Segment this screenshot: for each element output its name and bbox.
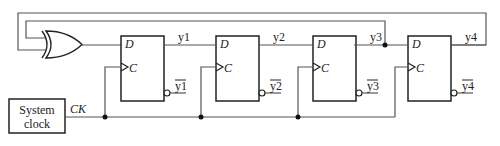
c-input-label: C <box>321 61 330 75</box>
xor-gate <box>42 31 82 58</box>
qbar-output-label: y1 <box>175 79 187 93</box>
d-input-label: D <box>219 37 229 51</box>
qbar-output-label: y3 <box>367 79 379 93</box>
inverted-output-bubble <box>451 90 457 96</box>
clock-wire-ff2 <box>201 67 216 117</box>
clock-wire-ff1 <box>105 67 121 117</box>
d-input-label: D <box>124 37 134 51</box>
c-input-label: C <box>129 61 138 75</box>
junction-y3 <box>383 43 388 48</box>
q-output-label: y1 <box>178 30 190 44</box>
ck-signal-label: CK <box>70 102 87 116</box>
c-input-label: C <box>224 61 233 75</box>
qbar-output-label: y4 <box>462 79 474 93</box>
flipflop-3: DCy3y3 <box>313 30 382 101</box>
qbar-output-label: y2 <box>270 79 282 93</box>
clock-label-line2: clock <box>24 117 50 131</box>
clock-wire-ff4 <box>395 67 408 117</box>
c-input-label: C <box>416 61 425 75</box>
flipflop-1: DCy1y1 <box>121 30 190 101</box>
clock-label-line1: System <box>19 103 55 117</box>
d-input-label: D <box>316 37 326 51</box>
inverted-output-bubble <box>259 90 265 96</box>
inverted-output-bubble <box>164 90 170 96</box>
q-output-label: y3 <box>370 30 382 44</box>
d-input-label: D <box>411 37 421 51</box>
inverted-output-bubble <box>356 90 362 96</box>
clock-junction <box>103 115 108 120</box>
q-output-label: y4 <box>465 30 477 44</box>
clock-junction <box>296 115 301 120</box>
clock-wire-ff3 <box>298 67 313 117</box>
clock-junction <box>199 115 204 120</box>
flipflop-4: DCy4y4 <box>408 30 477 101</box>
flipflop-2: DCy2y2 <box>216 30 285 101</box>
shift-register-diagram: DCy1y1DCy2y2DCy3y3DCy4y4 System clock CK <box>0 0 500 146</box>
q-output-label: y2 <box>273 30 285 44</box>
